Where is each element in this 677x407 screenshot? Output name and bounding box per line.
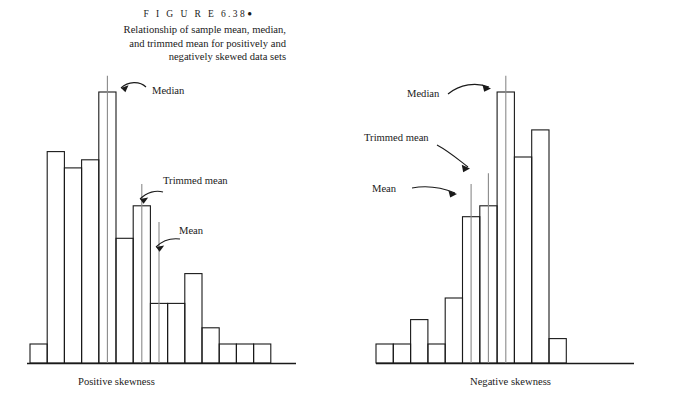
histogram-bar (168, 303, 185, 363)
histogram-bar (219, 344, 236, 363)
figure-chart-area: Median Trimmed mean Mean Positive skewne… (0, 0, 677, 407)
histogram-bar (532, 130, 549, 363)
left-trimmed-mean-leader-icon (140, 191, 163, 199)
histogram-bar (376, 344, 393, 363)
right-panel-caption: Negative skewness (470, 376, 551, 387)
left-trimmed-mean-label: Trimmed mean (163, 175, 228, 186)
figure-root: F I G U R E 6.38● Relationship of sample… (0, 0, 677, 407)
left-histogram-bars (30, 92, 271, 363)
histogram-bar (254, 344, 271, 363)
histogram-bar (202, 328, 219, 363)
left-median-label: Median (152, 85, 185, 96)
left-mean-label: Mean (179, 225, 204, 236)
left-mean-leader-icon (156, 239, 180, 247)
histogram-bar (411, 320, 428, 363)
histogram-bar (236, 344, 253, 363)
right-trimmed-mean-leader-icon (437, 145, 468, 167)
histogram-bar (64, 168, 81, 363)
positive-skew-histogram: Median Trimmed mean Mean Positive skewne… (27, 76, 296, 387)
right-mean-label: Mean (372, 183, 397, 194)
right-mean-leader-icon (412, 187, 455, 193)
histogram-bar (393, 344, 410, 363)
right-stat-markers (471, 76, 506, 363)
histogram-bar (445, 298, 462, 363)
histogram-bar (514, 157, 531, 363)
histogram-bar (428, 344, 445, 363)
negative-skew-histogram: Median Trimmed mean Mean Negative skewne… (364, 76, 634, 387)
histogram-bar (549, 339, 566, 363)
histogram-bar (116, 238, 133, 363)
histogram-bar (185, 274, 202, 363)
histogram-bar (82, 160, 99, 363)
right-median-label: Median (407, 88, 440, 99)
histogram-bar (30, 344, 47, 363)
left-panel-caption: Positive skewness (78, 376, 155, 387)
right-trimmed-mean-label: Trimmed mean (364, 132, 429, 143)
right-mean-arrowhead-icon (448, 190, 457, 197)
histogram-bar (47, 152, 64, 363)
